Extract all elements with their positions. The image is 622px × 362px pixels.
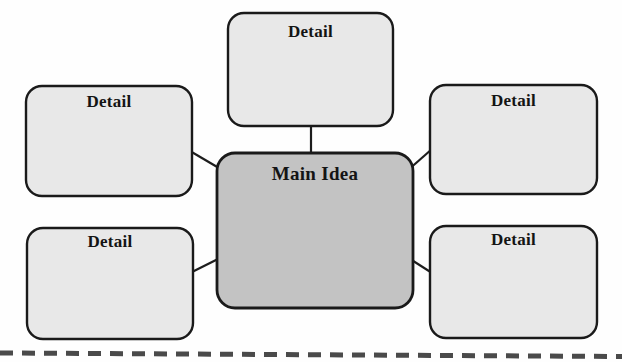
dashed-rule xyxy=(0,353,622,357)
detail-top-right-box[interactable] xyxy=(430,85,597,194)
main-idea-node-group xyxy=(217,153,413,308)
detail-top-box[interactable] xyxy=(228,13,393,126)
detail-top-left-box[interactable] xyxy=(26,86,192,196)
diagram-canvas: Detail Detail Detail Detail Detail Main … xyxy=(0,0,622,362)
main-idea-box[interactable] xyxy=(217,153,413,308)
diagram-graphics xyxy=(0,0,622,362)
footer-rule-group xyxy=(0,353,622,357)
detail-bottom-left-box[interactable] xyxy=(27,228,193,339)
detail-bottom-right-box[interactable] xyxy=(430,226,597,338)
